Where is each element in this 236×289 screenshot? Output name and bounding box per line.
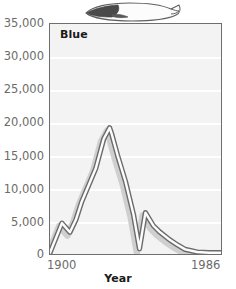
y-tick-label: 15,000	[4, 149, 44, 163]
plot-area	[49, 23, 222, 255]
x-tick-label-end: 1986	[191, 258, 220, 272]
y-tick-label: 10,000	[4, 182, 44, 196]
blue-whale-illustration	[78, 0, 184, 24]
x-tick-label-start: 1900	[47, 258, 76, 272]
series-blue-line	[50, 24, 221, 254]
chart-figure: 35,000 30,000 25,000 20,000 15,000 10,00…	[0, 0, 236, 289]
y-tick-label: 30,000	[4, 49, 44, 63]
x-axis-title: Year	[0, 272, 236, 285]
y-tick-label: 25,000	[4, 82, 44, 96]
y-axis: 35,000 30,000 25,000 20,000 15,000 10,00…	[0, 23, 46, 255]
y-tick-label: 35,000	[4, 16, 44, 30]
y-tick-label: 0	[37, 247, 44, 261]
series-label: Blue	[60, 28, 88, 41]
y-tick-label: 20,000	[4, 115, 44, 129]
y-tick-label: 5,000	[11, 215, 44, 229]
